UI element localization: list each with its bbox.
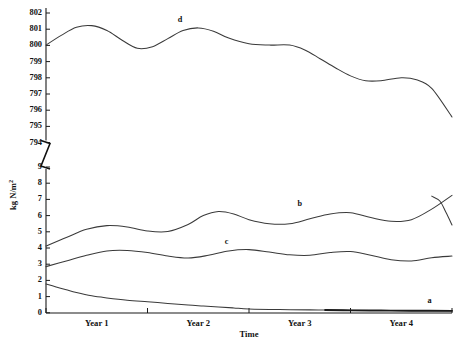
series-label-d: d [178, 15, 183, 24]
line-chart-svg: 794795796797798799800801802 0123456789 Y… [0, 0, 459, 343]
y-tick-label: 0 [38, 308, 42, 317]
x-axis-title-text: Time [240, 329, 259, 339]
y-tick-label: 7 [38, 194, 42, 203]
x-tick-label: Year 4 [390, 318, 414, 328]
y-tick-label: 795 [29, 121, 42, 130]
chart-background [0, 0, 459, 343]
y-tick-label: 798 [29, 73, 42, 82]
x-tick-label: Year 1 [85, 318, 108, 328]
series-label-c: c [225, 237, 229, 246]
y-tick-label: 801 [29, 24, 42, 33]
x-tick-label: Year 2 [187, 318, 210, 328]
y-axis-title-text: kg N/m2 [7, 180, 18, 210]
series-path-a-tail [325, 310, 452, 311]
y-tick-label: 800 [29, 40, 42, 49]
y-tick-label: 3 [38, 259, 42, 268]
chart-container: 794795796797798799800801802 0123456789 Y… [0, 0, 459, 343]
x-tick-label: Year 3 [288, 318, 311, 328]
x-axis-title: Time [240, 329, 259, 339]
y-tick-label: 799 [29, 57, 42, 66]
y-tick-label: 796 [29, 105, 42, 114]
y-tick-label: 794 [29, 138, 42, 147]
y-tick-label: 5 [38, 227, 42, 236]
y-axis-title: kg N/m2 [7, 180, 18, 210]
y-tick-label: 2 [38, 275, 42, 284]
y-tick-label: 8 [38, 178, 42, 187]
y-tick-label: 797 [29, 89, 42, 98]
y-tick-label: 1 [38, 292, 42, 301]
y-tick-label: 802 [29, 8, 42, 17]
series-label-b: b [297, 199, 302, 208]
y-tick-label: 6 [38, 211, 42, 220]
series-label-a: a [428, 296, 432, 305]
